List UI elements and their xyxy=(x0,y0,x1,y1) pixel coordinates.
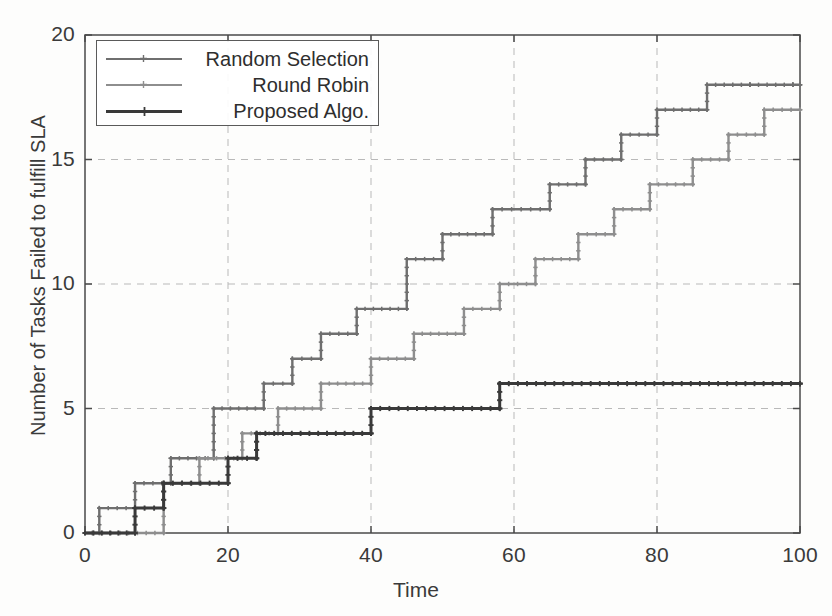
data-series-layer xyxy=(82,83,802,536)
chart-legend: Random Selection Round Robin Proposed Al… xyxy=(96,40,379,126)
x-tick-label-80: 80 xyxy=(622,543,692,567)
legend-item-round-robin: Round Robin xyxy=(97,72,380,98)
y-axis-title-wrap: Number of Tasks Failed to fulfill SLA xyxy=(27,16,50,536)
chart-figure: 20 15 10 5 0 0 20 40 60 80 100 Time Numb… xyxy=(0,0,832,616)
x-tick-label-60: 60 xyxy=(479,543,549,567)
legend-item-proposed-algo: Proposed Algo. xyxy=(97,98,380,124)
legend-swatch-random-selection xyxy=(106,50,182,68)
legend-item-random-selection: Random Selection xyxy=(97,46,380,72)
x-tick-label-100: 100 xyxy=(765,543,832,567)
x-tick-label-0: 0 xyxy=(50,543,120,567)
y-axis-title: Number of Tasks Failed to fulfill SLA xyxy=(27,115,49,436)
x-tick-label-20: 20 xyxy=(193,543,263,567)
x-tick-label-40: 40 xyxy=(336,543,406,567)
legend-label-round-robin: Round Robin xyxy=(182,74,380,97)
legend-label-random-selection: Random Selection xyxy=(182,48,380,71)
legend-swatch-round-robin xyxy=(106,76,182,94)
x-axis-title: Time xyxy=(0,578,832,602)
legend-label-proposed-algo: Proposed Algo. xyxy=(182,100,380,123)
legend-swatch-proposed-algo xyxy=(106,102,182,120)
